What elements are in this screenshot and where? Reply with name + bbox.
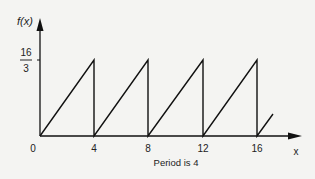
chart-caption: Period is 4 <box>154 157 199 168</box>
x-tick-12: 12 <box>197 143 209 154</box>
y-axis-label: f(x) <box>17 15 33 27</box>
y-tick-numerator: 16 <box>20 47 32 58</box>
x-tick-8: 8 <box>145 143 151 154</box>
x-tick-4: 4 <box>91 143 97 154</box>
x-axis-label: x <box>294 146 299 157</box>
sawtooth-chart: f(x) 16 3 0 4 8 12 16 x Period is 4 <box>0 0 315 179</box>
x-axis-arrow-icon <box>288 133 302 140</box>
y-tick-denominator: 3 <box>23 63 29 74</box>
x-tick-0: 0 <box>30 143 36 154</box>
x-tick-16: 16 <box>251 143 263 154</box>
sawtooth-series <box>40 60 273 136</box>
y-axis-arrow-icon <box>37 18 44 31</box>
